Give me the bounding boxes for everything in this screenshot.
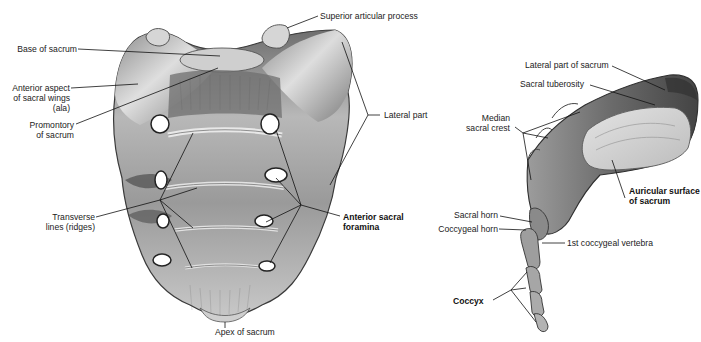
label-promontory-line2: of sacrum <box>10 130 74 140</box>
label-auricular-line2: of sacrum <box>629 196 700 206</box>
label-transverse-line1: Transverse <box>20 212 95 222</box>
label-lateral-part: Lateral part <box>384 110 427 120</box>
label-lateral-part-of-sacrum: Lateral part of sacrum <box>525 60 609 70</box>
label-foramina-line2: foramina <box>343 222 404 232</box>
label-transverse-lines: Transverse lines (ridges) <box>20 212 95 232</box>
label-anterior-sacral-foramina: Anterior sacral foramina <box>343 212 404 232</box>
label-promontory-of-sacrum: Promontory of sacrum <box>10 120 74 140</box>
label-promontory-line1: Promontory <box>10 120 74 130</box>
label-median-sacral-crest: Median sacral crest <box>458 113 510 133</box>
label-transverse-line2: lines (ridges) <box>20 222 95 232</box>
label-anterior-aspect-sacral-wings: Anterior aspect of sacral wings (ala) <box>2 83 70 113</box>
label-median-crest-line2: sacral crest <box>458 123 510 133</box>
label-superior-articular-process: Superior articular process <box>320 11 418 21</box>
anatomy-illustration <box>0 0 701 342</box>
label-coccyx: Coccyx <box>453 296 484 306</box>
label-sacral-tuberosity: Sacral tuberosity <box>520 79 584 89</box>
label-sacral-horn: Sacral horn <box>440 210 498 220</box>
label-anterior-aspect-line2: of sacral wings <box>2 93 70 103</box>
label-apex-of-sacrum: Apex of sacrum <box>215 327 275 337</box>
label-anterior-aspect-line1: Anterior aspect <box>2 83 70 93</box>
sacrum-anterior <box>114 25 352 322</box>
label-coccygeal-horn: Coccygeal horn <box>420 224 498 234</box>
label-auricular-line1: Auricular surface <box>629 186 700 196</box>
label-base-of-sacrum: Base of sacrum <box>5 44 77 54</box>
label-foramina-line1: Anterior sacral <box>343 212 404 222</box>
label-anterior-aspect-line3: (ala) <box>2 103 70 113</box>
label-median-crest-line1: Median <box>458 113 510 123</box>
label-first-coccygeal-vertebra: 1st coccygeal vertebra <box>567 238 653 248</box>
label-auricular-surface: Auricular surface of sacrum <box>629 186 700 206</box>
